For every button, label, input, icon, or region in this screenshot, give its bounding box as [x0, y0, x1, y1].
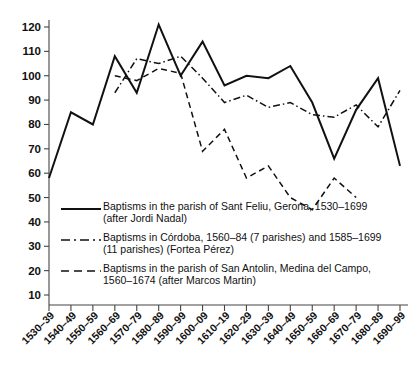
y-tick-label: 10 — [28, 289, 41, 301]
chart-legend: Baptisms in the parish of Sant Feliu, Ge… — [49, 200, 400, 296]
legend-label-line2: 1560–1674 (after Marcos Martin) — [103, 274, 371, 286]
legend-label-line1: Baptisms in the parish of San Antolin, M… — [103, 262, 371, 274]
y-tick-label: 100 — [22, 70, 41, 82]
y-tick-label: 80 — [28, 118, 41, 130]
y-tick-label: 30 — [28, 240, 41, 252]
series-line-sant-feliu — [49, 25, 400, 178]
legend-label-line1: Baptisms in Córdoba, 1560–84 (7 parishes… — [103, 231, 381, 243]
chart-canvas: 102030405060708090100110120 1530–391540–… — [0, 0, 420, 368]
legend-label-line2: (11 parishes) (Fortea Pérez) — [103, 243, 381, 255]
y-tick-label: 90 — [28, 94, 41, 106]
legend-label-san-antolin: Baptisms in the parish of San Antolin, M… — [103, 262, 371, 287]
y-tick-label: 60 — [28, 167, 41, 179]
series-line-san-antolin — [115, 68, 356, 209]
data-series-group — [49, 25, 400, 210]
legend-entry-cordoba: Baptisms in Córdoba, 1560–84 (7 parishes… — [49, 231, 400, 256]
y-tick-label: 40 — [28, 216, 41, 228]
legend-label-cordoba: Baptisms in Córdoba, 1560–84 (7 parishes… — [103, 231, 381, 256]
legend-entry-sant-feliu: Baptisms in the parish of Sant Feliu, Ge… — [49, 200, 400, 225]
y-tick-label: 70 — [28, 143, 41, 155]
dashed-line-key — [59, 264, 103, 277]
solid-line-key — [59, 202, 103, 215]
x-axis-tick-labels: 1530–391540–491550–591560–691570–791580–… — [19, 309, 408, 347]
legend-label-sant-feliu: Baptisms in the parish of Sant Feliu, Ge… — [103, 200, 367, 225]
y-tick-label: 50 — [28, 192, 41, 204]
legend-label-line2: (after Jordi Nadal) — [103, 212, 367, 224]
y-axis-tick-labels: 102030405060708090100110120 — [22, 21, 41, 301]
legend-label-line1: Baptisms in the parish of Sant Feliu, Ge… — [103, 200, 367, 212]
y-tick-label: 20 — [28, 265, 41, 277]
dashdot-line-key — [59, 233, 103, 246]
baptisms-line-chart: 102030405060708090100110120 1530–391540–… — [0, 0, 420, 368]
y-tick-label: 110 — [22, 45, 41, 57]
legend-entry-san-antolin: Baptisms in the parish of San Antolin, M… — [49, 262, 400, 287]
series-line-cordoba — [115, 56, 400, 127]
y-tick-label: 120 — [22, 21, 41, 33]
